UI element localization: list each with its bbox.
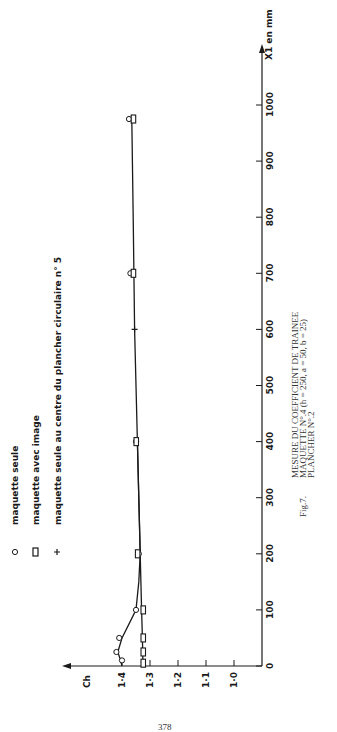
caption-line3: PLANCHER N°.2 [306, 411, 316, 478]
legend: maquette seule maquette avec image maque… [10, 257, 63, 556]
circle-point [133, 607, 138, 612]
x-tick-label: 700 [265, 264, 275, 283]
square-point [131, 269, 136, 277]
circle-marker-icon [12, 549, 17, 554]
y-tick-label: 1·0 [229, 672, 239, 688]
legend-label: maquette avec image [31, 415, 41, 525]
square-point [141, 659, 146, 667]
arrow-left-icon [62, 663, 71, 669]
fit-curves [118, 119, 143, 666]
figure-caption: Fig.7. MESURE DU COEFFICIENT DE TRAINEE … [290, 311, 316, 517]
y-tick-label: 1·3 [145, 672, 155, 688]
legend-item-square: maquette avec image [31, 415, 41, 556]
y-axis-label: Ch [82, 675, 92, 688]
legend-label: maquette seule au centre du plancher cir… [53, 257, 63, 525]
x-tick-label: 500 [265, 376, 275, 395]
square-marker-icon [33, 548, 38, 556]
circle-point [114, 649, 119, 654]
legend-item-circle: maquette seule [10, 446, 20, 555]
x-axis: X1 en mm 0100200300400500600700800900100… [256, 9, 275, 669]
x-tick-label: 800 [265, 207, 275, 226]
x-tick-label: 100 [265, 600, 275, 619]
square-point [131, 115, 136, 123]
chart: maquette seule maquette avec image maque… [0, 0, 337, 732]
legend-label: maquette seule [10, 446, 20, 525]
square-point [141, 634, 146, 642]
circle-point [119, 658, 124, 663]
plus-marker-icon [54, 549, 60, 555]
square-point [134, 438, 139, 446]
plus-point [132, 326, 138, 332]
x-axis-label: X1 en mm [264, 9, 274, 60]
x-tick-label: 400 [265, 432, 275, 451]
square-point [135, 550, 140, 558]
x-tick-label: 600 [265, 320, 275, 339]
square-point [141, 606, 146, 614]
y-axis: Ch 1·01·11·21·31·4 [62, 660, 262, 688]
legend-item-plus: maquette seule au centre du plancher cir… [53, 257, 63, 555]
y-tick-label: 1·4 [117, 672, 127, 688]
x-tick-label: 300 [265, 488, 275, 507]
x-tick-label: 200 [265, 544, 275, 563]
y-tick-label: 1·1 [201, 672, 211, 688]
fit-curve [118, 119, 140, 666]
y-tick-label: 1·2 [173, 672, 183, 688]
circle-point [117, 635, 122, 640]
x-tick-label: 1000 [265, 92, 275, 117]
page-number: 378 [158, 722, 172, 732]
x-tick-label: 900 [265, 151, 275, 170]
square-point [141, 648, 146, 656]
x-tick-label: 0 [265, 663, 275, 669]
caption-fig: Fig.7. [298, 496, 308, 517]
